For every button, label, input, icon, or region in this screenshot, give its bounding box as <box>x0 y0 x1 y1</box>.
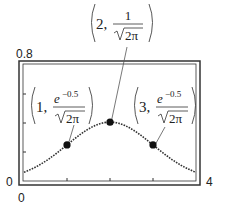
pdf-curve <box>24 122 196 172</box>
y-ticks <box>23 94 26 152</box>
p2-numerator: 1 <box>125 8 132 23</box>
p2-x-label: 2, <box>96 16 107 32</box>
data-point-2 <box>106 119 113 126</box>
annotation-point-3: 3, e −0.5 2π <box>135 87 196 126</box>
x-ticks <box>67 178 153 181</box>
data-point-3 <box>149 141 156 148</box>
chart: 0.8 0 0 4 2, 1 2π 1, e −0.5 2π 3, e −0.5… <box>0 0 226 205</box>
p3-numerator: e <box>157 91 163 106</box>
y-min-label: 0 <box>6 175 13 189</box>
p1-exponent: −0.5 <box>62 89 79 99</box>
annotation-point-2: 2, 1 2π <box>92 4 153 43</box>
x-max-label: 4 <box>206 175 213 189</box>
p1-x-label: 1, <box>36 99 47 115</box>
leader-line-2 <box>111 47 127 123</box>
p2-denominator: 2π <box>125 28 139 43</box>
x-min-label: 0 <box>18 191 25 205</box>
p3-x-label: 3, <box>139 99 150 115</box>
annotation-point-1: 1, e −0.5 2π <box>32 87 93 126</box>
p3-exponent: −0.5 <box>165 89 182 99</box>
leader-line-3 <box>155 127 165 145</box>
y-max-label: 0.8 <box>16 47 33 61</box>
p3-denominator: 2π <box>169 111 183 126</box>
p1-numerator: e <box>54 91 60 106</box>
data-point-1 <box>63 141 70 148</box>
p1-denominator: 2π <box>66 111 80 126</box>
